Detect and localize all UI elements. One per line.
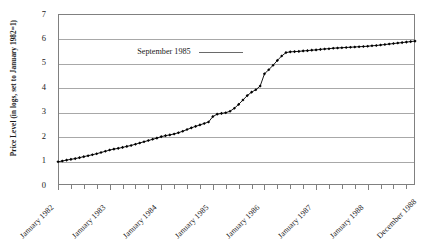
series-marker: [375, 44, 378, 47]
price-level-series: [0, 0, 428, 251]
series-marker: [392, 42, 395, 45]
series-marker: [203, 122, 206, 125]
series-marker: [130, 144, 133, 147]
series-marker: [340, 46, 343, 49]
series-marker: [306, 49, 309, 52]
series-marker: [151, 138, 154, 141]
series-marker: [185, 128, 188, 131]
series-marker: [362, 45, 365, 48]
series-marker: [121, 146, 124, 149]
series-marker: [396, 42, 399, 45]
series-marker: [310, 49, 313, 52]
series-marker: [134, 143, 137, 146]
series-marker: [108, 149, 111, 152]
series-marker: [173, 132, 176, 135]
series-marker: [297, 50, 300, 53]
series-marker: [61, 160, 64, 163]
series-marker: [56, 160, 59, 163]
series-marker: [138, 141, 141, 144]
series-marker: [224, 111, 227, 114]
series-marker: [332, 47, 335, 50]
series-marker: [112, 148, 115, 151]
series-marker: [74, 157, 77, 160]
series-marker: [155, 137, 158, 140]
series-marker: [181, 130, 184, 133]
series-marker: [366, 45, 369, 48]
series-marker: [91, 153, 94, 156]
series-marker: [95, 152, 98, 155]
series-marker: [125, 145, 128, 148]
series-marker: [65, 159, 68, 162]
series-marker: [164, 134, 167, 137]
series-marker: [353, 45, 356, 48]
series-marker: [220, 112, 223, 115]
series-marker: [370, 44, 373, 47]
series-marker: [413, 40, 416, 43]
series-marker: [315, 48, 318, 51]
series-marker: [190, 126, 193, 129]
series-marker: [147, 139, 150, 142]
series-marker: [78, 156, 81, 159]
series-marker: [383, 43, 386, 46]
series-marker: [117, 147, 120, 150]
series-marker: [177, 131, 180, 134]
series-marker: [142, 140, 145, 143]
series-marker: [87, 154, 90, 157]
series-marker: [82, 155, 85, 158]
series-marker: [379, 43, 382, 46]
series-marker: [69, 158, 72, 161]
series-marker: [194, 125, 197, 128]
annotation-leader-line: [199, 52, 243, 53]
series-marker: [405, 41, 408, 44]
series-marker: [323, 47, 326, 50]
series-marker: [319, 48, 322, 51]
figure-caption: [6, 243, 422, 251]
annotation-september-1985: September 1985: [137, 47, 190, 56]
series-marker: [401, 41, 404, 44]
series-marker: [302, 49, 305, 52]
series-line: [58, 41, 415, 162]
series-marker: [409, 40, 412, 43]
series-marker: [349, 46, 352, 49]
series-marker: [345, 46, 348, 49]
series-marker: [336, 46, 339, 49]
series-marker: [99, 151, 102, 154]
series-marker: [289, 50, 292, 53]
series-marker: [388, 42, 391, 45]
series-marker: [327, 47, 330, 50]
series-marker: [198, 123, 201, 126]
series-marker: [104, 150, 107, 153]
series-marker: [293, 50, 296, 53]
series-marker: [358, 45, 361, 48]
series-marker: [168, 133, 171, 136]
series-marker: [160, 135, 163, 138]
chart-figure: Price Level (in logs, set to January 198…: [0, 0, 428, 251]
